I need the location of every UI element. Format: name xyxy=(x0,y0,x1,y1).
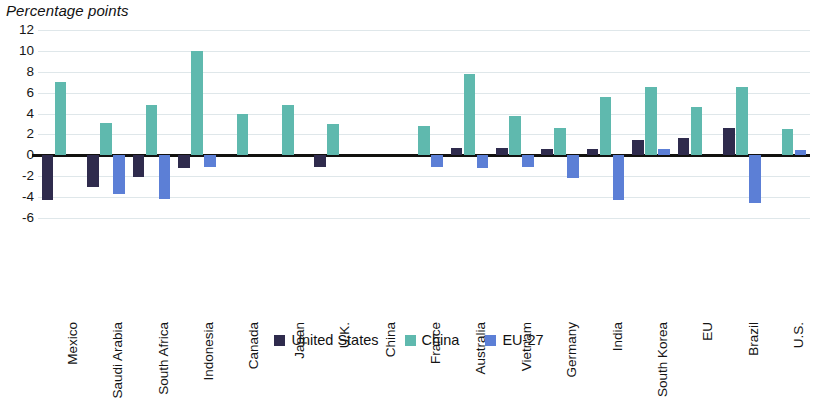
plot-area xyxy=(38,30,810,218)
bar xyxy=(146,105,158,155)
bar xyxy=(613,155,625,200)
bar xyxy=(464,74,476,155)
legend-item-china[interactable]: China xyxy=(405,332,460,348)
bar xyxy=(691,107,703,155)
bar-group xyxy=(674,30,719,218)
y-axis-tick-labels: 121086420-2-4-6 xyxy=(0,30,34,218)
bar xyxy=(431,155,443,166)
bar-group xyxy=(719,30,764,218)
bar xyxy=(723,128,735,155)
bar-group xyxy=(129,30,174,218)
bar xyxy=(204,155,216,166)
bar-group xyxy=(38,30,83,218)
bar xyxy=(100,123,112,155)
bar xyxy=(600,97,612,155)
bar xyxy=(522,155,534,166)
x-axis-category-labels: MexicoSaudi ArabiaSouth AfricaIndonesiaC… xyxy=(38,222,810,326)
y-tick-label: 12 xyxy=(19,23,34,37)
bar xyxy=(87,155,99,186)
bar-group xyxy=(265,30,310,218)
bar xyxy=(314,155,326,166)
bar xyxy=(282,105,294,155)
legend-label: United States xyxy=(291,332,378,348)
bar-group xyxy=(447,30,492,218)
bar xyxy=(749,155,761,203)
bar xyxy=(237,114,249,156)
bar xyxy=(133,155,145,177)
bar-group xyxy=(583,30,628,218)
bar xyxy=(191,51,203,155)
bar xyxy=(327,124,339,155)
y-tick-label: -4 xyxy=(22,190,34,204)
legend-label: EU-27 xyxy=(502,332,543,348)
bar xyxy=(587,149,599,155)
axis-title: Percentage points xyxy=(6,2,129,19)
bar-group xyxy=(356,30,401,218)
legend: United StatesChinaEU-27 xyxy=(0,332,818,348)
y-tick-label: -2 xyxy=(22,169,34,183)
bar xyxy=(159,155,171,199)
bar-group xyxy=(765,30,810,218)
bar-group xyxy=(538,30,583,218)
bar-group xyxy=(492,30,537,218)
bar xyxy=(736,87,748,155)
legend-swatch-icon xyxy=(405,335,416,346)
bar xyxy=(567,155,579,178)
x-category-label: Australia xyxy=(474,322,488,375)
bar xyxy=(42,155,54,200)
y-tick-label: 8 xyxy=(26,65,34,79)
x-category-label: Germany xyxy=(565,322,579,378)
bar xyxy=(496,148,508,155)
legend-label: China xyxy=(422,332,460,348)
bar xyxy=(477,155,489,168)
gridline xyxy=(38,218,810,219)
bar-group xyxy=(310,30,355,218)
legend-swatch-icon xyxy=(485,335,496,346)
bar-group xyxy=(174,30,219,218)
legend-swatch-icon xyxy=(274,335,285,346)
bar xyxy=(541,149,553,155)
bar xyxy=(795,150,807,155)
bar xyxy=(55,82,67,155)
y-tick-label: 10 xyxy=(19,44,34,58)
y-tick-label: 2 xyxy=(26,128,34,142)
bar-group xyxy=(628,30,673,218)
legend-item-eu_27[interactable]: EU-27 xyxy=(485,332,543,348)
bar xyxy=(678,138,690,156)
bar xyxy=(645,87,657,155)
bar xyxy=(451,148,463,155)
bar xyxy=(632,140,644,156)
legend-item-united_states[interactable]: United States xyxy=(274,332,378,348)
bar-group xyxy=(220,30,265,218)
y-tick-label: -6 xyxy=(22,211,34,225)
bar xyxy=(782,129,794,155)
y-tick-label: 6 xyxy=(26,86,34,100)
bar xyxy=(509,116,521,156)
bar-group xyxy=(401,30,446,218)
bar-group xyxy=(83,30,128,218)
x-category-label: Indonesia xyxy=(202,322,216,381)
bar xyxy=(554,128,566,155)
bar xyxy=(658,149,670,155)
bar xyxy=(418,126,430,155)
bar xyxy=(178,155,190,168)
bar-groups xyxy=(38,30,810,218)
y-tick-label: 4 xyxy=(26,107,34,121)
bar xyxy=(113,155,125,194)
